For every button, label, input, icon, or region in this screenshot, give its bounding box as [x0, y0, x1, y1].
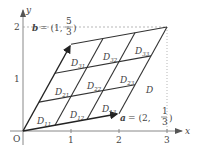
svg-text:1: 1 — [162, 106, 168, 116]
x-tick-3: 3 — [164, 135, 170, 145]
svg-text:a: a — [120, 113, 126, 123]
x-tick-1: 1 — [68, 135, 74, 145]
x-axis-label: x — [185, 126, 190, 136]
svg-text:D22: D22 — [86, 81, 102, 92]
svg-text:3: 3 — [162, 117, 168, 127]
y-tick-2: 2 — [14, 22, 20, 32]
svg-text:D33: D33 — [134, 46, 150, 57]
svg-text:= (2,: = (2, — [128, 113, 151, 123]
svg-text:D12: D12 — [69, 110, 85, 121]
svg-text:): ) — [169, 113, 173, 123]
region-label: D — [145, 85, 153, 95]
origin-label: O — [13, 134, 20, 144]
x-tick-2: 2 — [116, 135, 122, 145]
parallelogram-diagram: x y O 1 2 3 1 2 D11 D12 D13 D21 D22 D23 … — [0, 0, 197, 154]
svg-text:D11: D11 — [36, 116, 51, 127]
svg-text:D32: D32 — [102, 52, 118, 63]
y-tick-1: 1 — [14, 74, 20, 84]
vector-b-label: b = (1, 5 3 ) — [32, 16, 77, 37]
svg-text:= (1,: = (1, — [40, 23, 63, 33]
svg-text:5: 5 — [66, 16, 72, 26]
y-axis-label: y — [25, 5, 32, 15]
vector-b — [23, 46, 70, 131]
svg-text:3: 3 — [66, 27, 72, 37]
vector-a-label: a = (2, 1 3 ) — [120, 106, 173, 127]
svg-text:D23: D23 — [119, 75, 135, 86]
svg-text:D31: D31 — [70, 58, 85, 69]
svg-text:b: b — [32, 23, 38, 33]
svg-text:): ) — [73, 23, 77, 33]
svg-text:D21: D21 — [54, 87, 69, 98]
svg-text:D13: D13 — [101, 104, 117, 115]
